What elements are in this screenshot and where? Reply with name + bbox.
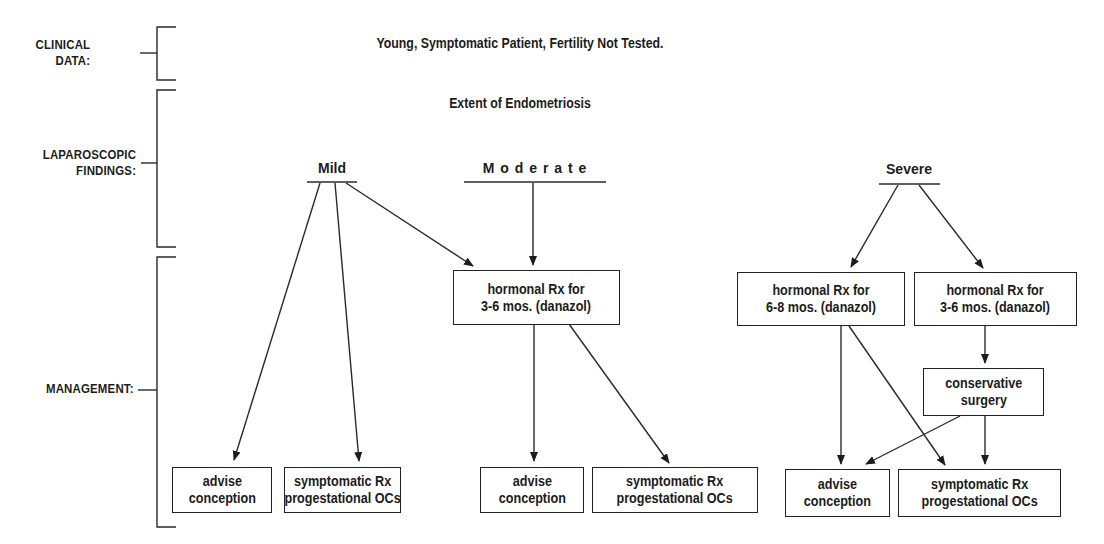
node-line: conception xyxy=(498,490,565,507)
node-line: advise xyxy=(498,473,565,490)
node-line: hormonal Rx for xyxy=(482,281,592,298)
node-line: 3-6 mos. (danazol) xyxy=(941,299,1051,316)
node-severe-hormonal-rx-3-6: hormonal Rx for3-6 mos. (danazol) xyxy=(914,272,1077,326)
node-line: advise xyxy=(188,473,255,490)
node-line: 6-8 mos. (danazol) xyxy=(766,299,876,316)
node-severe-conservative-surgery: conservativesurgery xyxy=(923,368,1044,416)
node-line: conservative xyxy=(945,375,1022,392)
node-line: conception xyxy=(804,493,871,510)
node-moderate-symptomatic-rx: symptomatic Rxprogestational OCs xyxy=(592,467,758,513)
node-line: symptomatic Rx xyxy=(921,476,1037,493)
node-moderate-advise-conception: adviseconception xyxy=(480,467,584,513)
node-line: conception xyxy=(188,490,255,507)
node-line: symptomatic Rx xyxy=(284,473,400,490)
node-line: progestational OCs xyxy=(284,490,400,507)
node-severe-hormonal-rx-6-8: hormonal Rx for6-8 mos. (danazol) xyxy=(737,272,905,326)
node-line: hormonal Rx for xyxy=(766,282,876,299)
node-line: symptomatic Rx xyxy=(617,473,733,490)
node-line: progestational OCs xyxy=(921,493,1037,510)
node-line: 3-6 mos. (danazol) xyxy=(482,298,592,315)
node-mild-advise-conception: adviseconception xyxy=(172,467,272,513)
node-mild-symptomatic-rx: symptomatic Rxprogestational OCs xyxy=(284,467,401,513)
node-line: hormonal Rx for xyxy=(941,282,1051,299)
node-line: advise xyxy=(804,476,871,493)
node-line: progestational OCs xyxy=(617,490,733,507)
node-severe-symptomatic-rx: symptomatic Rxprogestational OCs xyxy=(898,469,1061,517)
node-moderate-hormonal-rx: hormonal Rx for3-6 mos. (danazol) xyxy=(453,270,620,325)
node-severe-advise-conception: adviseconception xyxy=(785,469,890,517)
node-line: surgery xyxy=(945,392,1022,409)
